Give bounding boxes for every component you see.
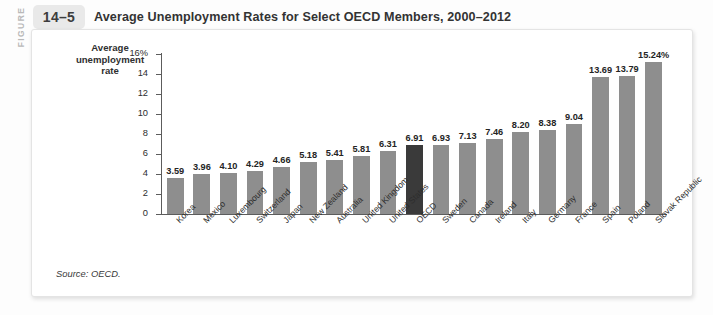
y-tick-label: 0 [143,208,148,218]
bar-slot: 7.13 [459,54,476,214]
bar-slot: 4.10 [220,54,237,214]
y-tick-label: 12 [138,88,148,98]
y-tick-label: 10 [138,108,148,118]
y-tick-label: 16% [129,48,148,58]
bar-value-label: 13.79 [616,64,639,74]
bar-value-label: 15.24% [638,50,669,60]
bar-value-label: 7.46 [485,127,503,137]
figure-container: FIGURE 14–5 Average Unemployment Rates f… [0,0,713,315]
bar-value-label: 5.41 [326,148,344,158]
bar-value-label: 3.59 [166,166,184,176]
bar-value-label: 9.04 [565,112,583,122]
bar-value-label: 6.31 [379,139,397,149]
bar-value-label: 4.66 [273,155,291,165]
y-tick-label: 14 [138,68,148,78]
bar-value-label: 7.13 [459,131,477,141]
bar-slot: 3.96 [193,54,210,214]
y-tick-0: 0 [156,214,162,215]
bar-value-label: 5.18 [299,150,317,160]
y-tick-label: 6 [143,148,148,158]
bar-poland [619,76,636,214]
bar-value-label: 13.69 [589,65,612,75]
bar-slot: 3.59 [167,54,184,214]
bar-slot: 5.18 [300,54,317,214]
bar-value-label: 6.91 [406,133,424,143]
bar-value-label: 4.29 [246,159,264,169]
bar-slot: 13.69 [592,54,609,214]
bar-value-label: 8.20 [512,120,530,130]
page-title: Average Unemployment Rates for Select OE… [94,10,511,24]
bar-korea [167,178,184,214]
bar-value-label: 8.38 [538,118,556,128]
figure-number: 14–5 [33,9,85,25]
plot-area: 0246810121416% 3.593.964.104.294.665.185… [161,54,697,214]
bar-value-label: 3.96 [193,162,211,172]
bar-slot: 15.24% [645,54,662,214]
bar-value-label: 5.81 [352,144,370,154]
bar-value-label: 4.10 [219,161,237,171]
bar-slot: 6.93 [433,54,450,214]
bar-germany [539,130,556,214]
bar-slot: 7.46 [486,54,503,214]
y-tick-label: 8 [143,128,148,138]
y-tick-label: 4 [143,168,148,178]
y-tick-label: 2 [143,188,148,198]
source-note: Source: OECD. [56,268,121,279]
bar-italy [512,132,529,214]
bar-slot: 8.38 [539,54,556,214]
chart-panel: Average unemployment rate 0246810121416%… [31,29,693,297]
bar-slot: 9.04 [566,54,583,214]
bar-slot: 8.20 [512,54,529,214]
bar-slot: 13.79 [619,54,636,214]
bar-slovak-republic [645,62,662,214]
bar-value-label: 6.93 [432,133,450,143]
figure-word-label: FIGURE [16,0,26,57]
bar-slot: 5.81 [353,54,370,214]
bar-spain [592,77,609,214]
